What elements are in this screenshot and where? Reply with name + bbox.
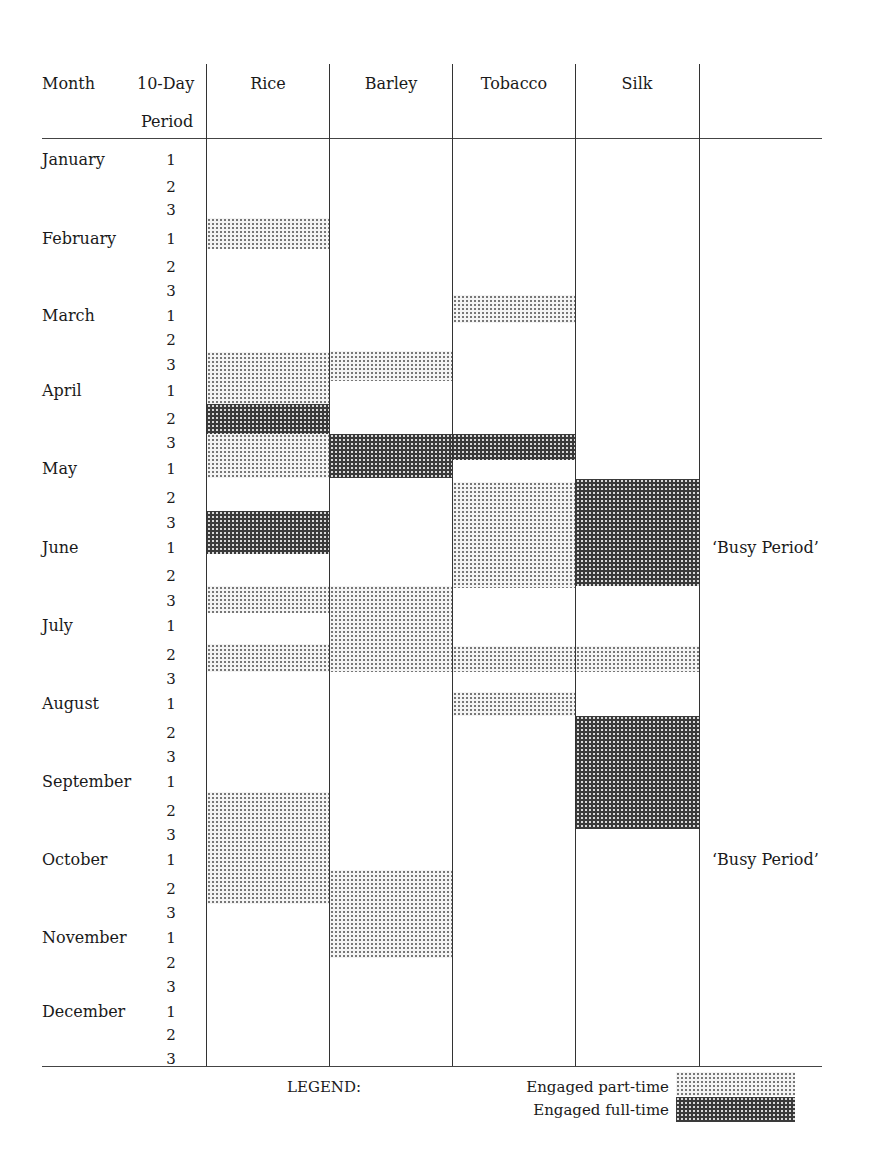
month-label: December: [42, 1002, 125, 1021]
period-number: 3: [161, 904, 181, 922]
header-period-line2: Period: [141, 112, 193, 131]
period-number: 2: [161, 646, 181, 664]
month-label: June: [42, 538, 79, 557]
header-rule: [42, 138, 822, 139]
tobacco-full-time-block: [453, 434, 575, 460]
header-month: Month: [42, 74, 95, 93]
month-label: May: [42, 459, 77, 478]
month-label: October: [42, 850, 108, 869]
period-number: 3: [161, 1050, 181, 1068]
period-number: 1: [161, 230, 181, 248]
period-number: 1: [161, 382, 181, 400]
rice-part-time-block: [207, 644, 329, 672]
month-label: September: [42, 772, 131, 791]
period-number: 3: [161, 514, 181, 532]
tobacco-part-time-block: [453, 692, 575, 716]
period-number: 2: [161, 1026, 181, 1044]
legend-part-time-label: Engaged part-time: [470, 1078, 669, 1096]
period-number: 2: [161, 802, 181, 820]
barley-part-time-block: [330, 870, 452, 958]
tobacco-part-time-block: [453, 295, 575, 323]
rice-part-time-block: [207, 352, 329, 404]
column-divider-1: [206, 64, 207, 1066]
silk-full-time-block: [576, 479, 699, 586]
busy-period-annotation: ‘Busy Period’: [712, 850, 819, 869]
month-label: March: [42, 306, 95, 325]
rice-full-time-block: [207, 511, 329, 554]
month-label: April: [42, 381, 82, 400]
legend-title: LEGEND:: [287, 1078, 361, 1096]
rice-part-time-block: [207, 792, 329, 904]
barley-full-time-block: [330, 434, 452, 478]
barley-part-time-block: [330, 351, 452, 381]
period-number: 3: [161, 201, 181, 219]
period-number: 2: [161, 331, 181, 349]
legend-full-time-label: Engaged full-time: [470, 1101, 669, 1119]
period-number: 2: [161, 567, 181, 585]
rice-part-time-block: [207, 586, 329, 613]
period-number: 2: [161, 954, 181, 972]
period-number: 1: [161, 539, 181, 557]
busy-period-annotation: ‘Busy Period’: [712, 538, 819, 557]
barley-part-time-block: [330, 586, 452, 672]
period-number: 1: [161, 773, 181, 791]
period-number: 2: [161, 724, 181, 742]
month-label: August: [42, 694, 99, 713]
rice-full-time-block: [207, 404, 329, 434]
period-number: 1: [161, 929, 181, 947]
month-label: January: [42, 150, 105, 169]
period-number: 3: [161, 434, 181, 452]
period-number: 1: [161, 617, 181, 635]
legend-part-time-swatch: [676, 1072, 795, 1096]
month-label: November: [42, 928, 127, 947]
period-number: 1: [161, 460, 181, 478]
rice-part-time-block: [207, 218, 329, 249]
period-number: 1: [161, 307, 181, 325]
month-label: February: [42, 229, 116, 248]
period-number: 1: [161, 695, 181, 713]
header-rice: Rice: [207, 74, 329, 93]
period-number: 2: [161, 410, 181, 428]
period-number: 2: [161, 880, 181, 898]
period-number: 3: [161, 670, 181, 688]
tobacco-part-time-block: [453, 646, 575, 672]
period-number: 1: [161, 1003, 181, 1021]
period-number: 3: [161, 592, 181, 610]
period-number: 1: [161, 151, 181, 169]
period-number: 3: [161, 826, 181, 844]
rice-part-time-block: [207, 434, 329, 478]
header-tobacco: Tobacco: [453, 74, 575, 93]
header-barley: Barley: [330, 74, 452, 93]
header-silk: Silk: [576, 74, 698, 93]
period-number: 2: [161, 258, 181, 276]
month-label: July: [42, 616, 73, 635]
period-number: 3: [161, 978, 181, 996]
legend-full-time-swatch: [676, 1097, 795, 1122]
period-number: 1: [161, 851, 181, 869]
period-number: 3: [161, 748, 181, 766]
period-number: 3: [161, 356, 181, 374]
period-number: 3: [161, 282, 181, 300]
tobacco-part-time-block: [453, 482, 575, 588]
period-number: 2: [161, 489, 181, 507]
silk-full-time-block: [576, 716, 699, 829]
period-number: 2: [161, 178, 181, 196]
header-period-line1: 10-Day: [137, 74, 194, 93]
bottom-rule: [42, 1066, 822, 1067]
silk-part-time-block: [576, 646, 699, 672]
column-divider-5: [699, 64, 700, 1066]
